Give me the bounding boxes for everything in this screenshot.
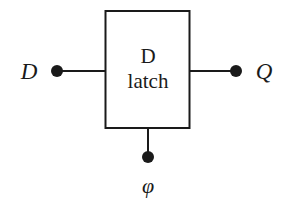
input-port-d: D (20, 59, 105, 84)
block-title-line2: latch (128, 69, 169, 93)
clock-label: φ (142, 173, 154, 198)
input-label: D (20, 59, 38, 84)
output-port-q: Q (190, 59, 273, 84)
input-terminal-dot (51, 65, 63, 77)
clock-terminal-dot (142, 151, 154, 163)
output-terminal-dot (230, 65, 242, 77)
block-title-line1: D (140, 44, 155, 68)
d-latch-diagram: D latch D Q φ (0, 0, 286, 207)
clock-port-phi: φ (142, 128, 154, 198)
output-label: Q (256, 59, 273, 84)
